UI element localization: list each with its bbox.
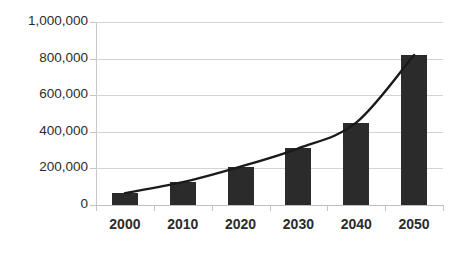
y-axis-label: 1,000,000: [0, 13, 88, 28]
x-axis-tick: [270, 206, 271, 211]
y-axis-label: 600,000: [0, 86, 88, 101]
x-axis-tick: [154, 206, 155, 211]
y-axis-label: 0: [0, 196, 88, 211]
trend-line: [96, 22, 443, 205]
y-axis-label: 200,000: [0, 159, 88, 174]
trend-line-path: [125, 55, 414, 193]
x-axis-tick: [385, 206, 386, 211]
plot-area: [96, 22, 443, 205]
x-axis-tick: [327, 206, 328, 211]
y-axis-label: 400,000: [0, 123, 88, 138]
x-axis-tick: [212, 206, 213, 211]
x-axis-label: 2050: [379, 216, 449, 232]
x-axis-tick: [96, 206, 97, 211]
x-axis-tick: [443, 206, 444, 211]
chart-container: 0200,000400,000600,000800,0001,000,000 2…: [0, 0, 457, 261]
y-axis-label: 800,000: [0, 50, 88, 65]
